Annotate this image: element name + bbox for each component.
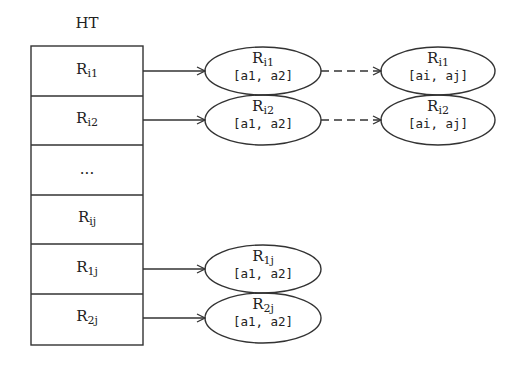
solid-arrows <box>143 71 205 318</box>
node-name: Ri2 <box>381 99 495 116</box>
node-name: Ri1 <box>205 51 321 68</box>
table-row-ij: Rij <box>31 208 143 228</box>
node-range: [a1, a2] <box>205 118 321 131</box>
hash-table-diagram: HT Ri1 Ri2 ... Rij R1j R2j Ri1 [a1, a2] … <box>0 0 521 369</box>
row-subscript: i2 <box>87 116 98 129</box>
dashed-arrows <box>321 71 381 120</box>
node-name: R2j <box>205 297 321 314</box>
node-range: [ai, aj] <box>381 70 495 83</box>
node-range: [a1, a2] <box>205 316 321 329</box>
row-subscript: 1j <box>87 265 97 278</box>
row-label: R <box>76 60 87 78</box>
node-range: [ai, aj] <box>381 118 495 131</box>
node-mid-1j: R1j [a1, a2] <box>205 249 321 281</box>
node-right-i2: Ri2 [ai, aj] <box>381 99 495 131</box>
row-subscript: 2j <box>87 314 97 327</box>
node-range: [a1, a2] <box>205 70 321 83</box>
table-row-ellipsis: ... <box>31 160 143 180</box>
table-row-2j: R2j <box>31 307 143 327</box>
row-label: ... <box>80 160 94 178</box>
hash-table-title: HT <box>31 14 143 32</box>
row-subscript: i1 <box>87 67 98 80</box>
node-mid-i1: Ri1 [a1, a2] <box>205 51 321 83</box>
node-name: Ri1 <box>381 51 495 68</box>
row-subscript: ij <box>89 215 96 228</box>
node-right-i1: Ri1 [ai, aj] <box>381 51 495 83</box>
table-row-i2: Ri2 <box>31 109 143 129</box>
row-label: R <box>76 258 87 276</box>
table-row-1j: R1j <box>31 258 143 278</box>
row-label: R <box>78 208 89 226</box>
node-mid-2j: R2j [a1, a2] <box>205 297 321 329</box>
hash-table <box>31 46 143 345</box>
table-row-i1: Ri1 <box>31 60 143 80</box>
node-mid-i2: Ri2 [a1, a2] <box>205 99 321 131</box>
row-label: R <box>76 307 87 325</box>
row-label: R <box>76 109 87 127</box>
node-name: R1j <box>205 249 321 266</box>
node-name: Ri2 <box>205 99 321 116</box>
node-range: [a1, a2] <box>205 268 321 281</box>
